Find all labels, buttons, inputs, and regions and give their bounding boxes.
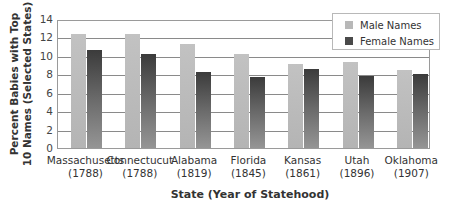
x-category-name: Oklahoma [371,154,451,167]
legend-swatch-male [345,21,353,29]
y-tick-label: 12 [35,31,53,43]
bar-male-massachusetts [71,34,86,148]
legend-item-male: Male Names [345,18,422,32]
legend-label-male: Male Names [360,20,422,31]
y-tick-label: 8 [35,68,53,80]
bar-female-alabama [196,72,211,148]
y-axis-label-line-1: Percent Babies with Top [8,2,21,167]
y-tick-label: 10 [35,50,53,62]
y-tick-label: 2 [35,124,53,136]
bar-male-kansas [288,64,303,148]
y-axis-label: Percent Babies with Top 10 Names (Select… [3,10,39,158]
legend-item-female: Female Names [345,34,434,48]
bar-male-alabama [180,44,195,148]
y-tick-label: 0 [35,142,53,154]
x-category-year: (1907) [371,167,451,180]
bar-chart: Percent Babies with Top 10 Names (Select… [0,0,452,208]
bar-male-utah [343,62,358,148]
bar-female-kansas [304,69,319,148]
bar-female-connectucut [141,54,156,148]
y-tick-label: 4 [35,105,53,117]
x-category-label: Oklahoma(1907) [371,154,451,180]
y-axis-label-line-2: 10 Names (Selected States) [21,2,34,167]
bar-female-utah [359,76,374,148]
bar-female-oklahoma [413,74,428,148]
y-tick-label: 14 [35,13,53,25]
bar-male-oklahoma [397,70,412,148]
legend: Male Names Female Names [332,13,440,50]
bar-female-massachusetts [87,50,102,148]
y-tick-label: 6 [35,87,53,99]
bar-female-florida [250,77,265,148]
bar-male-connectucut [125,34,140,148]
legend-swatch-female [345,37,353,45]
x-axis-label: State (Year of Statehood) [150,188,350,201]
legend-label-female: Female Names [360,36,434,47]
bar-male-florida [234,54,249,148]
